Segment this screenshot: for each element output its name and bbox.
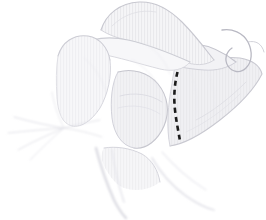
anatomical-figure: Anatomical line drawing of the shoulder …	[0, 0, 266, 220]
illustration-canvas	[0, 0, 266, 220]
